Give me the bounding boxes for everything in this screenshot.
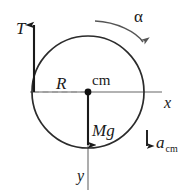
angular-acceleration-label: α [134, 8, 143, 25]
weight-label: Mg [92, 122, 115, 139]
tension-label: T [16, 20, 25, 37]
radius-label: R [56, 75, 66, 92]
acceleration-subscript: cm [166, 143, 178, 154]
center-of-mass-label: cm [92, 73, 110, 88]
acceleration-symbol: a [156, 133, 165, 152]
x-axis-label: x [164, 95, 171, 111]
center-of-mass-dot [85, 89, 92, 96]
physics-diagram: T R cm x y Mg α acm [0, 0, 193, 192]
acceleration-cm-label: acm [156, 134, 178, 154]
y-axis-label: y [77, 168, 84, 184]
